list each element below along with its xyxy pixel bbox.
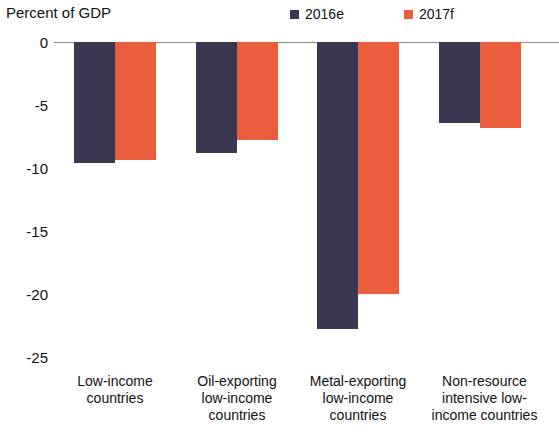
category-label-line-3: countries <box>167 407 307 424</box>
bar-2016e-oil-exporting[interactable] <box>196 42 237 153</box>
y-tick-label--5: -5 <box>4 98 48 113</box>
category-label-line-2: low-income <box>167 390 307 407</box>
bar-2016e-non-resource-intensive[interactable] <box>439 42 480 123</box>
category-label-line-1: Low-income <box>45 373 185 390</box>
category-label-line-2: countries <box>45 390 185 407</box>
category-label-metal-exporting: Metal-exporting low-income countries <box>288 373 428 424</box>
y-tick-label-0: 0 <box>4 35 48 50</box>
category-label-line-3: income countries <box>412 407 557 424</box>
category-label-low-income-countries: Low-income countries <box>45 373 185 407</box>
bar-2017f-low-income-countries[interactable] <box>115 42 156 160</box>
bar-2017f-oil-exporting[interactable] <box>237 42 278 140</box>
category-label-line-3: countries <box>288 407 428 424</box>
category-label-line-1: Metal-exporting <box>288 373 428 390</box>
bar-2017f-metal-exporting[interactable] <box>358 42 399 294</box>
category-label-line-2: low-income <box>288 390 428 407</box>
bar-2016e-metal-exporting[interactable] <box>317 42 358 329</box>
category-label-line-1: Oil-exporting <box>167 373 307 390</box>
category-label-non-resource-intensive: Non-resource intensive low- income count… <box>412 373 557 424</box>
bar-chart: Percent of GDP 2016e 2017f 0 -5 -10 -15 … <box>0 0 559 436</box>
y-tick-label--20: -20 <box>4 287 48 302</box>
y-tick-label--25: -25 <box>4 350 48 365</box>
category-label-line-2: intensive low- <box>412 390 557 407</box>
bar-2017f-non-resource-intensive[interactable] <box>480 42 521 128</box>
plot-area: 0 -5 -10 -15 -20 -25 Low-income countrie… <box>0 0 559 436</box>
y-tick-label--10: -10 <box>4 161 48 176</box>
y-tick-label--15: -15 <box>4 224 48 239</box>
bar-2016e-low-income-countries[interactable] <box>74 42 115 163</box>
category-label-line-1: Non-resource <box>412 373 557 390</box>
category-label-oil-exporting: Oil-exporting low-income countries <box>167 373 307 424</box>
